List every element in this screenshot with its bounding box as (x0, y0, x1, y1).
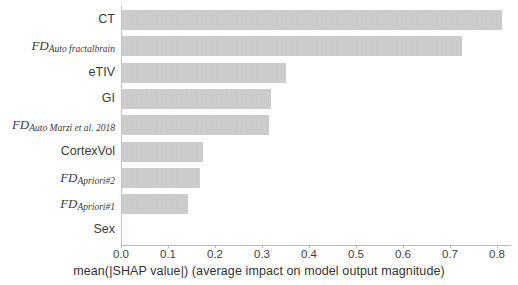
bar (121, 10, 502, 30)
bar (121, 36, 462, 56)
y-axis-label: eTIV (0, 65, 115, 79)
bar (121, 168, 200, 188)
x-axis-tick-label: 0.1 (148, 248, 188, 260)
y-axis-label-main: eTIV (89, 65, 115, 79)
x-axis-tick-label: 0.2 (195, 248, 235, 260)
shap-bar-chart: CTFDAuto fractalbraineTIVGIFDAuto Marzi … (0, 0, 518, 285)
bar-row (121, 165, 518, 192)
y-axis-label-main: CortexVol (61, 144, 115, 158)
x-axis-tick-label: 0.5 (336, 248, 376, 260)
x-axis-tick-label: 0.7 (430, 248, 470, 260)
y-axis-label: CortexVol (0, 144, 115, 158)
y-axis-label: FDApriori#2 (0, 170, 115, 186)
bar (121, 142, 203, 162)
bar-row (121, 191, 518, 218)
y-axis-label-main: FD (12, 117, 29, 132)
y-axis-label-main: FD (60, 196, 77, 211)
y-axis-label-main: CT (98, 12, 115, 26)
bar (121, 89, 271, 109)
bar-row (121, 139, 518, 166)
y-axis-label: FDAuto Marzi et al. 2018 (0, 117, 115, 133)
bar-row (121, 86, 518, 113)
y-axis-label: CT (0, 12, 115, 26)
y-axis-label-main: GI (102, 91, 115, 105)
bar (121, 63, 286, 83)
x-axis-tick-label: 0.3 (242, 248, 282, 260)
bar-row (121, 60, 518, 87)
x-axis-title: mean(|SHAP value|) (average impact on mo… (0, 264, 518, 278)
y-axis-label-subscript: Apriori#2 (78, 176, 115, 186)
y-axis-label-main: FD (31, 38, 48, 53)
x-axis-tick-label: 0.8 (477, 248, 517, 260)
y-axis-label-subscript: Auto fractalbrain (49, 44, 115, 54)
x-axis-line (121, 245, 511, 246)
x-axis-tick-label: 0.6 (383, 248, 423, 260)
x-axis-tick-label: 0.4 (289, 248, 329, 260)
bar-row (121, 217, 518, 244)
bar (121, 115, 269, 135)
y-axis-label: FDAuto fractalbrain (0, 38, 115, 54)
y-axis-label-main: Sex (93, 222, 115, 236)
bar-row (121, 7, 518, 34)
y-axis-line (121, 6, 122, 245)
y-axis-label-subscript: Auto Marzi et al. 2018 (29, 123, 115, 133)
bar (121, 194, 188, 214)
y-axis-label: FDApriori#1 (0, 196, 115, 212)
y-axis-label-main: FD (60, 170, 77, 185)
bar-row (121, 112, 518, 139)
x-axis-tick-label: 0.0 (101, 248, 141, 260)
bar-row (121, 33, 518, 60)
y-axis-label: GI (0, 91, 115, 105)
y-axis-label-subscript: Apriori#1 (78, 202, 115, 212)
y-axis-label: Sex (0, 222, 115, 236)
